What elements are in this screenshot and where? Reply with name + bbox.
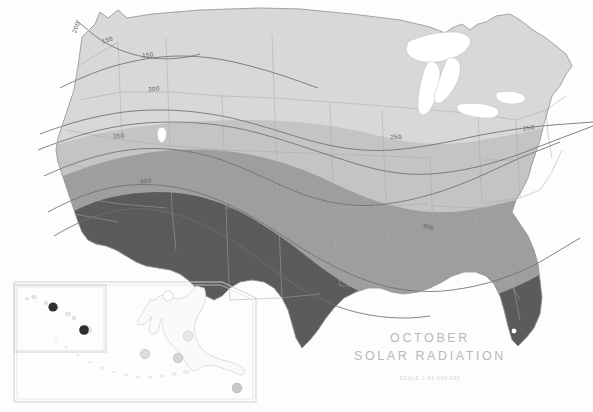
- alaska-marker: [183, 331, 193, 341]
- alaska-inset-frame-inner: [17, 285, 253, 399]
- hawaii-marker: [79, 325, 89, 335]
- hawaii-marker: [48, 302, 57, 311]
- map-canvas: 200 150 150 300 350 400 250 250 400: [0, 0, 593, 412]
- alaska-marker: [140, 349, 150, 359]
- contour-label: 200: [70, 20, 81, 33]
- contour-label: 350: [113, 132, 125, 140]
- alaska-marker: [232, 383, 242, 393]
- contour-label: 300: [148, 85, 160, 93]
- contour-label: 250: [390, 133, 402, 140]
- alaska-marker: [163, 291, 173, 301]
- alaska-landmass: [137, 286, 244, 375]
- solar-radiation-map: 200 150 150 300 350 400 250 250 400: [0, 0, 593, 412]
- contour-label: 400: [140, 176, 152, 184]
- lake-okeechobee: [512, 329, 517, 334]
- aleutian-islands: [55, 337, 189, 378]
- hawaii-inset-frame-inner: [16, 287, 104, 350]
- alaska-inset-frame: [14, 282, 256, 402]
- inset-layer: [14, 282, 256, 402]
- contour-label: 150: [142, 51, 154, 59]
- hawaii-inset-frame: [14, 285, 106, 352]
- hawaii-markers: [48, 302, 88, 334]
- alaska-marker: [173, 353, 183, 363]
